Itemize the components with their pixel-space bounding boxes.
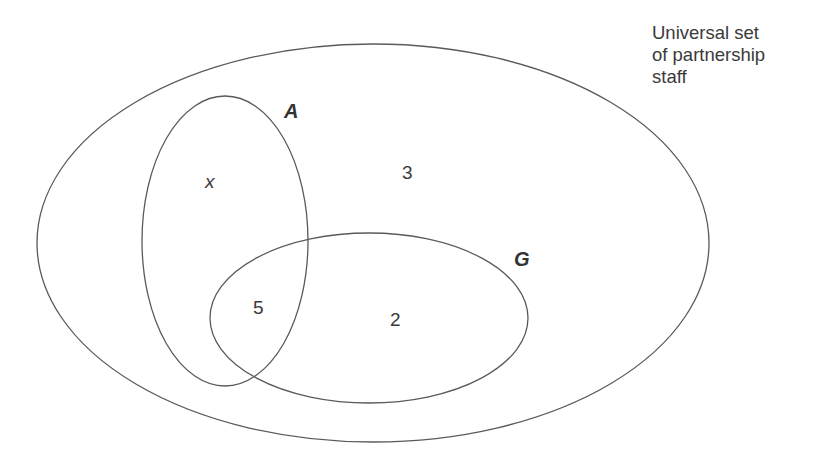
set-a-label: A — [284, 101, 298, 121]
region-a-only-value: x — [205, 172, 215, 191]
region-a-and-g-value: 5 — [253, 298, 264, 317]
universal-set-label-line-2: of partnership — [652, 44, 832, 66]
region-neither-value: 3 — [402, 163, 413, 182]
region-g-only-value: 2 — [390, 310, 401, 329]
set-g-ellipse — [210, 233, 528, 403]
universal-set-label-line-1: Universal set — [652, 22, 832, 44]
universal-set-label: Universal set of partnership staff — [652, 22, 832, 88]
set-g-label: G — [514, 249, 530, 269]
universal-set-ellipse — [37, 44, 709, 442]
universal-set-label-line-3: staff — [652, 66, 832, 88]
set-a-ellipse — [142, 96, 308, 386]
